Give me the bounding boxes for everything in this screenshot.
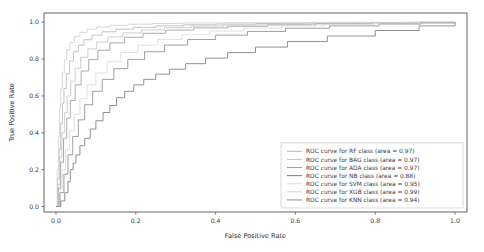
x-tick-label: 0.0 (51, 217, 61, 224)
legend-label[interactable]: ROC curve for RF class (area = 0.97) (306, 148, 414, 154)
x-tick-label: 0.2 (131, 217, 141, 224)
y-tick-label: 0.2 (29, 166, 39, 173)
legend-label[interactable]: ROC curve for BAG class (area = 0.97) (306, 157, 420, 163)
y-tick-label: 0.4 (29, 129, 39, 136)
x-axis-label: False Positive Rate (225, 232, 286, 240)
x-tick-label: 0.6 (290, 217, 300, 224)
y-tick-label: 0.8 (29, 55, 39, 62)
x-tick-label: 1.0 (450, 217, 460, 224)
x-axis-ticks: 0.00.20.40.60.81.0 (51, 212, 460, 224)
legend-label[interactable]: ROC curve for XGB class (area = 0.99) (306, 189, 420, 195)
x-tick-label: 0.8 (370, 217, 380, 224)
plot-canvas: 0.00.20.40.60.81.0 0.00.20.40.60.81.0 Fa… (0, 0, 484, 252)
y-axis-ticks: 0.00.20.40.60.81.0 (29, 18, 44, 209)
legend-label[interactable]: ROC curve for SVM class (area = 0.95) (306, 181, 420, 187)
legend-label[interactable]: ROC curve for KNN class (area = 0.94) (306, 197, 420, 203)
x-tick-label: 0.4 (211, 217, 221, 224)
y-tick-label: 0.6 (29, 92, 39, 99)
legend-label[interactable]: ROC curve for NB class (area = 0.88) (306, 173, 415, 179)
y-axis-label: True Positive Rate (8, 83, 16, 143)
roc-curve-figure: 0.00.20.40.60.81.0 0.00.20.40.60.81.0 Fa… (0, 0, 484, 252)
y-tick-label: 1.0 (29, 18, 39, 25)
legend[interactable]: ROC curve for RF class (area = 0.97)ROC … (281, 143, 463, 208)
y-tick-label: 0.0 (29, 203, 39, 210)
legend-label[interactable]: ROC curve for ADA class (area = 0.97) (306, 165, 419, 171)
